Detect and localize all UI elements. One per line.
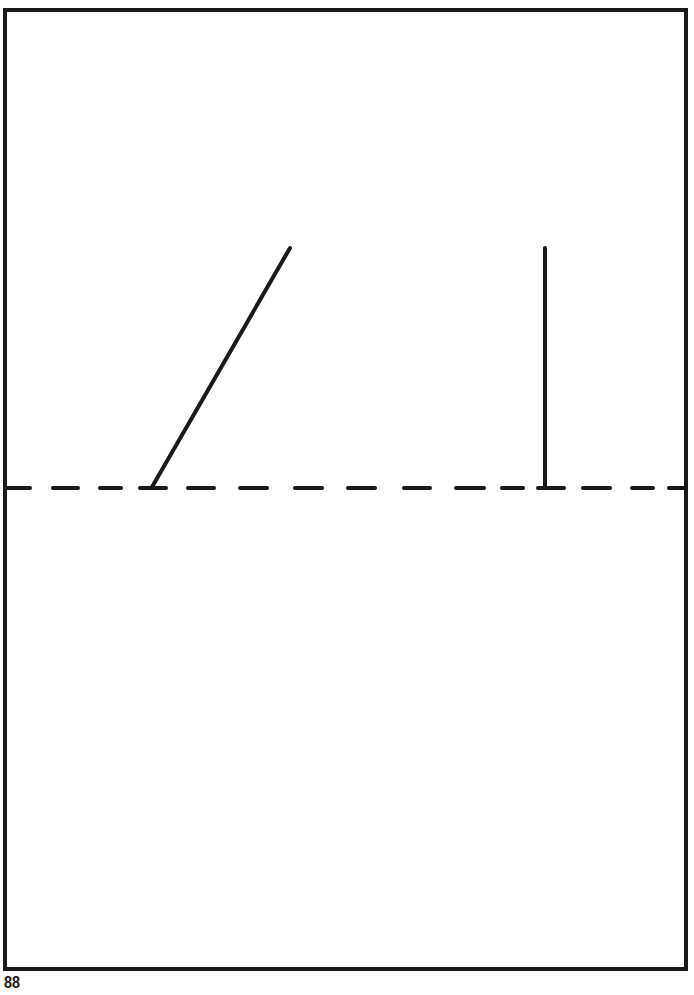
page-number: 88 (4, 974, 20, 992)
slanted-line (152, 248, 290, 487)
figure-lines (152, 248, 545, 487)
figure-diagram (0, 0, 694, 995)
